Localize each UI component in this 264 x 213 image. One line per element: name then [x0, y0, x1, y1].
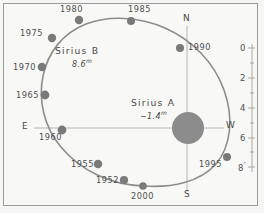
- sirius-a-magnitude-label: −1.4m: [140, 110, 167, 121]
- orbit-dot-1965: [41, 91, 50, 100]
- scale-label-8: 8″: [238, 162, 246, 172]
- sirius-a-magnitude-suffix: m: [161, 109, 167, 116]
- orbit-dot-1990: [176, 44, 184, 52]
- sirius-b-name-label: Sirius B: [55, 46, 99, 55]
- orbit-label-1960: 1960: [39, 133, 62, 141]
- scale-label-6: 6: [240, 134, 246, 143]
- orbit-dot-1985: [127, 17, 135, 25]
- orbit-label-1955: 1955: [71, 160, 94, 168]
- orbit-label-2000: 2000: [131, 192, 154, 200]
- compass-label-west: W: [226, 121, 235, 130]
- arcsecond-scale: [248, 44, 255, 172]
- orbit-label-1965: 1965: [16, 91, 39, 99]
- scale-label-4: 4: [240, 104, 246, 113]
- orbit-dot-1952: [120, 176, 128, 184]
- sirius-b-magnitude-suffix: m: [86, 57, 92, 64]
- arcsecond-symbol: ″: [244, 161, 247, 169]
- scale-label-0: 0: [240, 44, 246, 53]
- sirius-orbit-figure: 1980 1985 1990 1995 2000 1952 1955 1960 …: [0, 0, 264, 213]
- orbit-dot-2000: [139, 182, 147, 190]
- orbit-dot-1980: [75, 16, 83, 24]
- orbit-label-1975: 1975: [20, 29, 43, 37]
- compass-label-north: N: [183, 14, 190, 23]
- orbit-label-1985: 1985: [128, 5, 151, 13]
- orbit-dot-1975: [48, 34, 56, 42]
- orbit-label-1980: 1980: [60, 5, 83, 13]
- orbit-label-1952: 1952: [96, 176, 119, 184]
- sirius-b-magnitude-label: 8.6m: [72, 58, 92, 69]
- sirius-b-magnitude-value: 8.6: [72, 60, 86, 69]
- orbit-dot-1970: [38, 63, 47, 72]
- compass-label-east: E: [22, 122, 28, 131]
- orbit-dot-1955: [94, 160, 103, 169]
- sirius-a-name-label: Sirius A: [131, 98, 175, 107]
- orbit-label-1995: 1995: [199, 160, 222, 168]
- compass-label-south: S: [184, 190, 190, 199]
- orbit-label-1990: 1990: [188, 43, 211, 51]
- sirius-a-disk: [172, 112, 204, 144]
- sirius-a-magnitude-value: −1.4: [140, 112, 161, 121]
- orbit-dot-1995: [223, 153, 231, 161]
- orbit-label-1970: 1970: [13, 63, 36, 71]
- scale-label-2: 2: [240, 74, 246, 83]
